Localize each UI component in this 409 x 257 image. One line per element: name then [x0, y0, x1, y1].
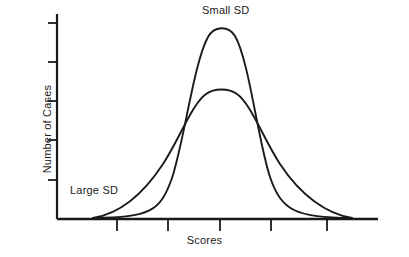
curve-small-sd: [93, 28, 352, 218]
curve-large-sd: [93, 90, 352, 219]
chart-plot-area: [0, 0, 409, 257]
large-sd-annotation: Large SD: [70, 184, 118, 196]
distribution-chart-figure: Number of Cases Scores Small SD Large SD: [0, 0, 409, 257]
x-axis-label: Scores: [0, 234, 409, 246]
small-sd-annotation: Small SD: [202, 4, 249, 16]
x-axis-ticks: [117, 219, 327, 231]
y-axis-label: Number of Cases: [41, 84, 53, 173]
